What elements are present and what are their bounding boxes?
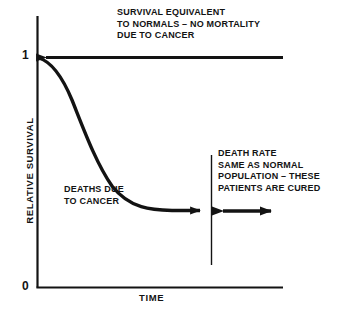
x-axis-label: TIME (139, 292, 164, 303)
annotation-deaths-due-to-cancer: DEATHS DUE TO CANCER (64, 184, 124, 207)
relative-survival-chart: 1 0 SURVIVAL EQUIVALENT TO NORMALS – NO … (0, 0, 354, 311)
annotation-death-rate-same-as-normal: DEATH RATE SAME AS NORMAL POPULATION – T… (218, 148, 320, 194)
y-tick-label-one: 1 (22, 48, 29, 62)
annotation-survival-equivalent: SURVIVAL EQUIVALENT TO NORMALS – NO MORT… (117, 7, 260, 42)
y-tick-label-zero: 0 (22, 279, 29, 293)
y-axis-label: RELATIVE SURVIVAL (24, 91, 35, 251)
